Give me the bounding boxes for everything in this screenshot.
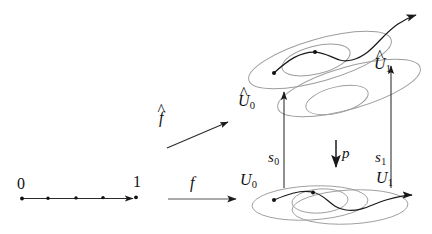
base-path-start-point bbox=[272, 198, 276, 202]
interval-label-1: 1 bbox=[133, 174, 141, 190]
u-1-subscript: 1 bbox=[388, 177, 393, 188]
interval-point-tick bbox=[74, 196, 77, 199]
lifted-path-group bbox=[272, 15, 416, 75]
u-1-base: U bbox=[376, 169, 388, 186]
interval-point-tick bbox=[46, 197, 49, 200]
downstairs-sets-group bbox=[251, 183, 409, 227]
ellipse-u-0 bbox=[251, 183, 369, 223]
set-label-u-hat-0: ^ U 0 bbox=[238, 93, 255, 112]
map-label-s0: s0 bbox=[268, 150, 279, 167]
interval-label-0: 0 bbox=[17, 176, 25, 192]
set-label-u-1: U1 bbox=[376, 170, 393, 189]
map-label-p: p bbox=[342, 146, 350, 161]
unit-interval-group bbox=[20, 195, 138, 200]
interval-point-0 bbox=[20, 197, 24, 201]
circumflex-accent-icon: ^ bbox=[240, 85, 248, 101]
ellipse-u-hat-1-outer bbox=[272, 47, 426, 128]
u-hat-1-subscript: 1 bbox=[386, 63, 391, 74]
f-hat-glyph: ^ f bbox=[159, 110, 163, 126]
lifted-path-curve bbox=[274, 15, 416, 73]
circumflex-accent-icon: ^ bbox=[376, 48, 384, 64]
ellipse-u-hat-1-inner bbox=[303, 80, 371, 121]
u-hat-0-subscript: 0 bbox=[250, 100, 255, 111]
ellipse-u-1 bbox=[291, 187, 409, 227]
f-hat-arrow bbox=[167, 122, 228, 148]
s0-base: s bbox=[268, 149, 274, 165]
u-hat-0-glyph: ^ U bbox=[238, 93, 250, 109]
path-lifting-diagram: 0 1 ^ f f s0 p s1 ^ U 0 ^ U 1 U0 U1 bbox=[0, 0, 432, 234]
set-label-u-0: U0 bbox=[240, 172, 257, 191]
s0-subscript: 0 bbox=[274, 156, 279, 167]
f-hat-arrow-group bbox=[167, 122, 228, 148]
u-hat-1-glyph: ^ U bbox=[374, 56, 386, 72]
lifted-path-start-point bbox=[272, 71, 276, 75]
set-label-u-hat-1: ^ U 1 bbox=[374, 56, 391, 75]
interval-point-1 bbox=[134, 195, 138, 199]
map-label-f-hat: ^ f bbox=[159, 110, 163, 126]
section-and-projection-arrows bbox=[284, 66, 391, 188]
s1-subscript: 1 bbox=[381, 156, 386, 167]
circumflex-accent-icon: ^ bbox=[157, 102, 165, 118]
u-0-base: U bbox=[240, 171, 252, 188]
interval-point-tick bbox=[101, 196, 104, 199]
u-0-subscript: 0 bbox=[252, 179, 257, 190]
map-label-f: f bbox=[190, 175, 194, 191]
s1-base: s bbox=[375, 149, 381, 165]
upstairs-sheets-group bbox=[243, 19, 426, 128]
diagram-canvas bbox=[0, 0, 432, 234]
base-path-mid-point bbox=[311, 191, 315, 195]
lifted-path-mid-point bbox=[313, 50, 317, 54]
map-label-s1: s1 bbox=[375, 150, 386, 167]
